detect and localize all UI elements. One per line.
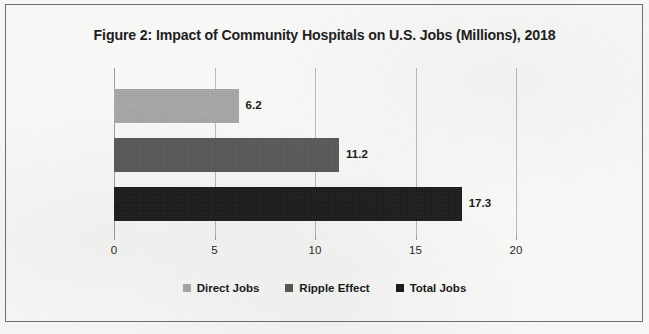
bar-direct-jobs <box>114 89 239 123</box>
legend-item-total-jobs[interactable]: Total Jobs <box>396 282 467 294</box>
tick-mark-0 <box>114 235 115 240</box>
tick-mark-20 <box>516 235 517 240</box>
figure-page: Figure 2: Impact of Community Hospitals … <box>0 0 649 334</box>
bar-value-ripple-effect: 11.2 <box>346 148 368 160</box>
bar-texture <box>114 89 239 123</box>
x-tick-label-5: 5 <box>195 244 235 256</box>
tick-mark-15 <box>416 235 417 240</box>
legend-item-ripple-effect[interactable]: Ripple Effect <box>285 282 369 294</box>
tick-mark-5 <box>215 235 216 240</box>
legend-swatch-icon <box>183 284 191 292</box>
bar-value-direct-jobs: 6.2 <box>246 99 262 111</box>
legend-swatch-icon <box>396 284 404 292</box>
legend-item-label: Total Jobs <box>410 282 467 294</box>
x-tick-label-20: 20 <box>496 244 536 256</box>
legend-item-label: Ripple Effect <box>299 282 369 294</box>
x-tick-label-10: 10 <box>295 244 335 256</box>
bar-texture <box>114 187 462 221</box>
x-tick-label-0: 0 <box>94 244 134 256</box>
x-tick-label-15: 15 <box>396 244 436 256</box>
chart-title: Figure 2: Impact of Community Hospitals … <box>0 27 649 43</box>
bar-total-jobs <box>114 187 462 221</box>
tick-mark-10 <box>315 235 316 240</box>
plot-area: 05101520 6.211.217.3 <box>114 68 516 235</box>
legend-item-direct-jobs[interactable]: Direct Jobs <box>183 282 260 294</box>
bar-texture <box>114 138 339 172</box>
bar-ripple-effect <box>114 138 339 172</box>
gridline-20 <box>516 68 517 235</box>
bar-value-total-jobs: 17.3 <box>469 197 491 209</box>
chart-legend: Direct JobsRipple EffectTotal Jobs <box>0 282 649 294</box>
legend-item-label: Direct Jobs <box>197 282 260 294</box>
legend-swatch-icon <box>285 284 293 292</box>
